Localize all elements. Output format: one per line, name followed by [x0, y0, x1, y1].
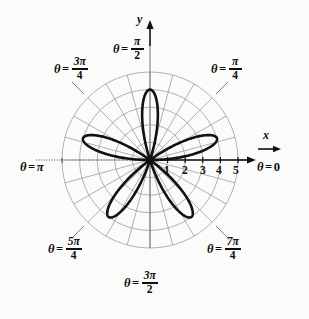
angle-value: π: [37, 160, 44, 174]
equals-sign: =: [120, 42, 130, 56]
equals-sign: =: [61, 62, 71, 76]
theta-symbol: θ: [113, 42, 120, 56]
x-axis-label: x: [263, 128, 269, 143]
fraction-denominator: 4: [228, 250, 238, 262]
x-tick-label-2: 2: [182, 164, 188, 176]
angle-label-theta-pi: θ=π: [20, 161, 43, 174]
equals-sign: =: [55, 242, 65, 256]
fraction-denominator: 4: [69, 250, 79, 262]
y-axis-arrowhead: [146, 20, 153, 29]
x-tick-label-3: 3: [200, 164, 206, 176]
equals-sign: =: [264, 160, 274, 174]
fraction-numerator: π: [230, 56, 240, 68]
equals-sign: =: [214, 242, 224, 256]
fraction-pi-over-4: π4: [229, 56, 242, 82]
fraction-numerator: 5π: [66, 236, 82, 248]
fraction-3pi-over-2: 3π2: [142, 270, 158, 296]
theta-symbol: θ: [48, 242, 55, 256]
fraction-pi-over-2: π2: [131, 36, 144, 62]
fraction-numerator: 3π: [72, 56, 88, 68]
fraction-numerator: 3π: [142, 270, 158, 282]
x-tick-label-1: 1: [164, 164, 170, 176]
x-axis-arrowhead: [247, 156, 256, 163]
polar-chart-figure: y x θ=π2 θ=3π4 θ=π4 θ=π θ=0 θ=5π4 θ=7π4 …: [0, 0, 309, 319]
theta-zero-direction-arrow: [258, 146, 281, 152]
theta-symbol: θ: [124, 276, 131, 290]
angle-label-theta-7pi-4: θ=7π4: [207, 237, 241, 263]
theta-symbol: θ: [20, 160, 27, 174]
angle-label-theta-pi-2: θ=π2: [113, 37, 144, 63]
equals-sign: =: [131, 276, 141, 290]
fraction-7pi-over-4: 7π4: [225, 236, 241, 262]
angle-label-theta-3pi-4: θ=3π4: [54, 57, 88, 83]
fraction-numerator: 7π: [225, 236, 241, 248]
theta-symbol: θ: [207, 242, 214, 256]
equals-sign: =: [218, 62, 228, 76]
fraction-denominator: 2: [132, 50, 142, 62]
fraction-denominator: 4: [75, 70, 85, 82]
angle-label-theta-0: θ=0: [257, 161, 280, 174]
fraction-3pi-over-4: 3π4: [72, 56, 88, 82]
equals-sign: =: [27, 160, 37, 174]
fraction-denominator: 2: [145, 284, 155, 296]
fraction-5pi-over-4: 5π4: [66, 236, 82, 262]
angle-value: 0: [274, 160, 280, 174]
angle-label-theta-5pi-4: θ=5π4: [48, 237, 82, 263]
theta-symbol: θ: [257, 160, 264, 174]
angle-label-theta-3pi-2: θ=3π2: [124, 271, 158, 297]
x-tick-label-5: 5: [233, 164, 239, 176]
y-axis-label: y: [137, 12, 142, 27]
y-axis: [146, 20, 153, 248]
theta-symbol: θ: [211, 62, 218, 76]
x-tick-label-4: 4: [216, 164, 222, 176]
theta-symbol: θ: [54, 62, 61, 76]
fraction-denominator: 4: [230, 70, 240, 82]
fraction-numerator: π: [132, 36, 142, 48]
angle-label-theta-pi-4: θ=π4: [211, 57, 242, 83]
